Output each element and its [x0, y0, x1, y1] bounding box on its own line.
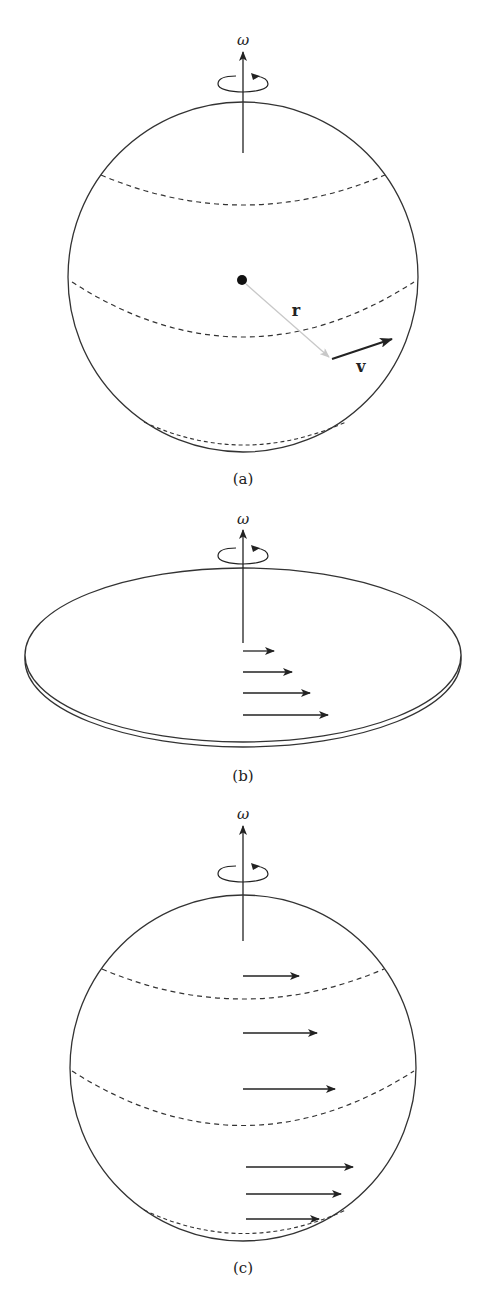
latitude-line-equator-a: [72, 282, 414, 337]
velocity-label: v: [355, 357, 366, 376]
sphere-c-outline: [70, 895, 416, 1241]
latitude-line-lower-a: [144, 422, 346, 445]
caption-a: (a): [233, 470, 254, 488]
latitude-line-lower-c: [144, 1210, 346, 1234]
caption-b: (b): [232, 767, 253, 785]
velocity-arrows-c: [243, 976, 353, 1219]
velocity-vector-arrow: [332, 339, 392, 359]
omega-label-a: ω: [237, 31, 249, 49]
center-point-a: [237, 275, 247, 285]
panel-b: ω (b): [25, 510, 461, 785]
radius-vector-arrow: [246, 284, 329, 357]
caption-c: (c): [233, 1259, 253, 1277]
panel-a: ω r v (a): [68, 31, 418, 488]
omega-label-c: ω: [237, 805, 249, 823]
radius-label: r: [292, 301, 301, 320]
rotation-figure: ω r v (a) ω: [0, 0, 488, 1304]
latitude-line-equator-c: [72, 1071, 414, 1126]
latitude-line-upper-c: [102, 969, 384, 999]
latitude-line-upper-a: [101, 175, 385, 205]
panel-c: ω (c): [70, 805, 416, 1277]
omega-label-b: ω: [237, 510, 249, 528]
